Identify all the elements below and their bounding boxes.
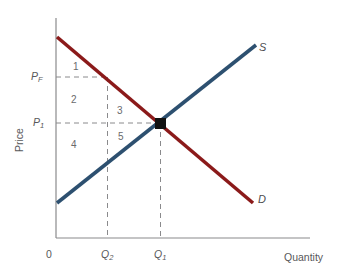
x-tick-label-q1: Q1 <box>154 249 166 260</box>
region-label-3: 3 <box>117 106 123 116</box>
y-tick-pf-base: P <box>31 70 38 82</box>
y-tick-label-p1: P1 <box>33 117 44 128</box>
origin-label: 0 <box>46 249 52 260</box>
plot-canvas <box>0 0 338 276</box>
x-tick-q1-sub: 1 <box>162 253 166 262</box>
x-axis-title: Quantity <box>284 252 323 263</box>
y-tick-label-pf: PF <box>31 71 43 82</box>
equilibrium-point-marker <box>155 118 166 129</box>
x-tick-q2-base: Q <box>101 248 109 260</box>
y-tick-p1-sub: 1 <box>40 121 44 130</box>
region-label-5: 5 <box>118 132 124 142</box>
demand-curve-label: D <box>258 194 266 205</box>
supply-curve-label: S <box>259 42 266 53</box>
region-label-1: 1 <box>73 62 79 72</box>
y-tick-p1-base: P <box>33 116 40 128</box>
y-tick-pf-sub: F <box>38 75 43 84</box>
region-label-4: 4 <box>71 140 77 150</box>
x-tick-label-q2: Q2 <box>101 249 113 260</box>
supply-demand-figure: Price PF P1 Q2 Q1 0 Quantity S D 1 2 3 4… <box>0 0 338 276</box>
x-tick-q2-sub: 2 <box>109 253 113 262</box>
x-tick-q1-base: Q <box>154 248 162 260</box>
region-label-2: 2 <box>71 95 77 105</box>
y-axis-title: Price <box>14 128 25 152</box>
